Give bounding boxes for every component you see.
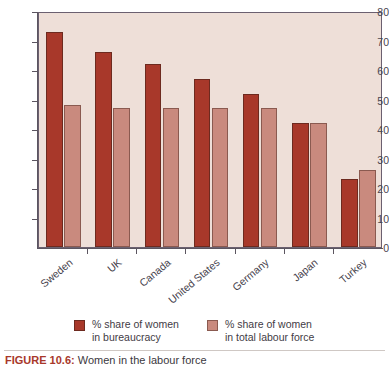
bar-turkey-series-1 <box>341 179 358 247</box>
y-axis-line <box>37 12 38 249</box>
y-axis-tick-mark <box>32 12 37 13</box>
y-axis-tick-label: 80 <box>359 7 389 18</box>
x-axis-line <box>37 248 383 249</box>
chart-legend: % share of women in bureaucracy % share … <box>0 312 389 350</box>
y-axis-tick-label: 10 <box>359 214 389 225</box>
bar-japan-series-2 <box>310 123 327 247</box>
bar-sweden-series-2 <box>64 105 81 247</box>
bar-japan-series-1 <box>292 123 309 247</box>
bar-united-states-series-1 <box>194 79 211 247</box>
bar-turkey-series-2 <box>359 170 376 247</box>
y-axis-tick-mark <box>32 71 37 72</box>
figure-caption: FIGURE 10.6: Women in the labour force <box>5 353 385 367</box>
legend-label-bureaucracy: % share of women in bureaucracy <box>92 318 179 343</box>
bar-germany-series-2 <box>261 108 278 247</box>
y-axis-tick-label: 70 <box>359 37 389 48</box>
bar-canada-series-2 <box>163 108 180 247</box>
y-axis-tick-label: 40 <box>359 125 389 136</box>
legend-swatch-icon-bureaucracy <box>74 320 85 331</box>
legend-swatch-icon-labour-force <box>207 320 218 331</box>
y-axis-tick-label: 20 <box>359 184 389 195</box>
y-axis-tick-label: 60 <box>359 66 389 77</box>
x-axis-tick-mark <box>333 249 334 254</box>
x-axis-tick-mark <box>284 249 285 254</box>
x-axis-tick-mark <box>87 249 88 254</box>
bar-canada-series-1 <box>145 64 162 247</box>
legend-item-bureaucracy: % share of women in bureaucracy <box>74 318 179 343</box>
bars-layer <box>39 13 381 247</box>
caption-divider <box>4 350 385 351</box>
legend-label-labour-force-line1: % share of women <box>225 318 312 330</box>
chart-plot-area: 01020304050607080 SwedenUKCanadaUnited S… <box>0 0 389 258</box>
legend-item-labour-force: % share of women in total labour force <box>207 318 314 343</box>
x-axis-tick-mark <box>185 249 186 254</box>
plot-frame <box>38 12 382 248</box>
legend-label-bureaucracy-line2: in bureaucracy <box>92 331 161 343</box>
legend-label-labour-force-line2: in total labour force <box>225 331 314 343</box>
bar-germany-series-1 <box>243 94 260 247</box>
x-axis-tick-mark <box>235 249 236 254</box>
y-axis-tick-mark <box>32 189 37 190</box>
figure-caption-label: FIGURE 10.6: <box>5 354 75 366</box>
y-axis-tick-mark <box>32 160 37 161</box>
bar-uk-series-1 <box>95 52 112 247</box>
y-axis-tick-mark <box>32 101 37 102</box>
x-axis-tick-mark <box>136 249 137 254</box>
y-axis-tick-label: 30 <box>359 155 389 166</box>
y-axis-tick-label: 50 <box>359 96 389 107</box>
y-axis-tick-label: 0 <box>359 243 389 254</box>
y-axis-tick-mark <box>32 130 37 131</box>
legend-label-labour-force: % share of women in total labour force <box>225 318 314 343</box>
y-axis-tick-mark <box>32 42 37 43</box>
bar-united-states-series-2 <box>212 108 229 247</box>
figure-caption-text: Women in the labour force <box>78 354 207 366</box>
bar-sweden-series-1 <box>46 32 63 247</box>
y-axis-tick-mark <box>32 219 37 220</box>
figure-container: 01020304050607080 SwedenUKCanadaUnited S… <box>0 0 389 370</box>
legend-label-bureaucracy-line1: % share of women <box>92 318 179 330</box>
bar-uk-series-2 <box>113 108 130 247</box>
